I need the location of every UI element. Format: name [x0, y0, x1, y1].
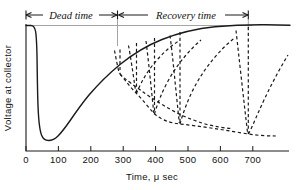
pulse-1-drop-guide: [115, 51, 120, 74]
x-tick-labels: 0 100 200 300 400 500 600 700: [23, 154, 261, 165]
x-tick-label-700: 700: [244, 154, 261, 165]
pulse-curve-4: [180, 32, 234, 124]
x-tick-label-400: 400: [147, 154, 164, 165]
x-tick-marks: [26, 146, 253, 151]
pulse-curve-3: [155, 38, 202, 114]
dead-time-label: Dead time: [48, 10, 93, 21]
recovery-time-label: Recovery time: [155, 10, 216, 21]
guide-lines: [26, 20, 252, 47]
main-curve-group: [26, 25, 290, 141]
x-tick-label-100: 100: [50, 154, 67, 165]
x-tick-label-0: 0: [23, 154, 29, 165]
pulse-3-drop-guide: [146, 41, 154, 113]
dashed-pulse-curves: [115, 27, 289, 136]
figure-container: Dead time Recovery time: [0, 0, 303, 190]
x-tick-label-600: 600: [212, 154, 229, 165]
x-tick-label-300: 300: [115, 154, 132, 165]
pulse-5-drop-guide: [236, 31, 248, 134]
plot-canvas: Dead time Recovery time: [0, 0, 303, 190]
main-voltage-curve: [26, 25, 290, 141]
x-tick-label-500: 500: [180, 154, 197, 165]
annotation-band: Dead time Recovery time: [26, 8, 248, 21]
pulse-curve-5: [248, 27, 288, 134]
pulse-4-drop-guide: [170, 36, 179, 124]
y-axis-label: Voltage at collector: [2, 45, 13, 131]
x-tick-label-200: 200: [82, 154, 99, 165]
x-axis-label: Time, μ sec: [126, 171, 178, 182]
